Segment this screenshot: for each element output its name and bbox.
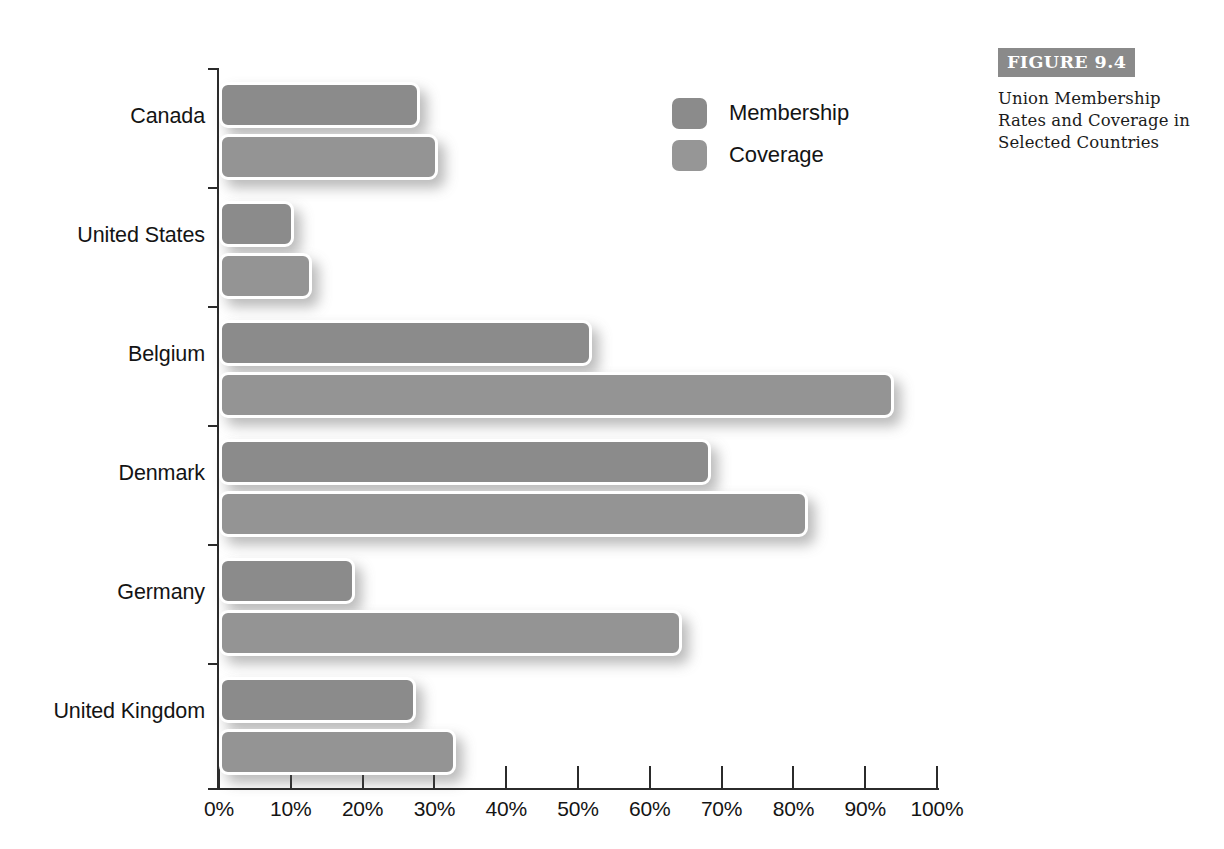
category-label-united-kingdom: United Kingdom [53, 699, 205, 724]
x-axis-tick-100 [936, 766, 938, 788]
bar-belgium-coverage [219, 372, 894, 418]
x-axis-tick-label-0: 0% [184, 797, 254, 821]
category-label-belgium: Belgium [128, 342, 205, 367]
x-axis-tick-70 [721, 766, 723, 788]
x-axis-tick-label-100: 100% [902, 797, 972, 821]
bar-united-states-membership [219, 201, 294, 247]
x-axis-tick-40 [505, 766, 507, 788]
x-axis-tick-label-30: 30% [399, 797, 469, 821]
y-axis-tick-2 [208, 306, 219, 308]
category-label-united-states: United States [77, 223, 205, 248]
figure-caption-text: Union Membership Rates and Coverage in S… [998, 88, 1210, 154]
x-axis-tick-label-20: 20% [328, 797, 398, 821]
category-label-canada: Canada [130, 104, 205, 129]
x-axis-tick-90 [864, 766, 866, 788]
category-label-denmark: Denmark [118, 461, 205, 486]
x-axis-tick-80 [792, 766, 794, 788]
figure-caption-block: FIGURE 9.4 Union Membership Rates and Co… [998, 48, 1210, 154]
legend-swatch-membership-icon [672, 98, 707, 129]
y-axis-tick-5 [208, 663, 219, 665]
x-axis-tick-60 [649, 766, 651, 788]
legend-label-membership: Membership [729, 100, 849, 126]
category-label-germany: Germany [117, 580, 205, 605]
bar-canada-membership [219, 82, 420, 128]
bar-germany-membership [219, 558, 355, 604]
y-axis-tick-6 [208, 788, 219, 790]
x-axis-tick-label-60: 60% [615, 797, 685, 821]
bar-canada-coverage [219, 134, 438, 180]
x-axis-tick-label-70: 70% [687, 797, 757, 821]
x-axis-tick-label-90: 90% [830, 797, 900, 821]
x-axis-tick-label-50: 50% [543, 797, 613, 821]
bar-united-kingdom-coverage [219, 729, 456, 775]
x-axis-tick-label-40: 40% [471, 797, 541, 821]
x-axis-line [217, 788, 939, 790]
y-axis-tick-0 [208, 68, 219, 70]
legend-item-coverage: Coverage [672, 134, 849, 176]
bar-denmark-coverage [219, 491, 808, 537]
y-axis-tick-1 [208, 187, 219, 189]
bar-united-states-coverage [219, 253, 312, 299]
bar-germany-coverage [219, 610, 682, 656]
x-axis-tick-label-80: 80% [758, 797, 828, 821]
legend-swatch-coverage-icon [672, 140, 707, 171]
legend-label-coverage: Coverage [729, 142, 824, 168]
bar-denmark-membership [219, 439, 711, 485]
y-axis-tick-3 [208, 425, 219, 427]
bar-united-kingdom-membership [219, 677, 416, 723]
bar-belgium-membership [219, 320, 592, 366]
legend-item-membership: Membership [672, 92, 849, 134]
y-axis-tick-4 [208, 544, 219, 546]
figure-number-banner: FIGURE 9.4 [998, 48, 1135, 77]
chart-legend: MembershipCoverage [672, 92, 849, 176]
x-axis-tick-50 [577, 766, 579, 788]
x-axis-tick-label-10: 10% [256, 797, 326, 821]
